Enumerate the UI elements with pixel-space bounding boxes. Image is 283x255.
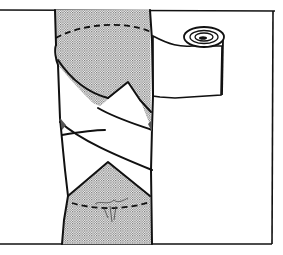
limb-left-edge (55, 10, 56, 45)
bandage-illustration (0, 0, 283, 255)
